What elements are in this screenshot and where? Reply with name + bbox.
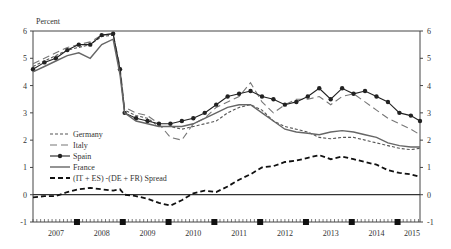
y-tick-label-left: 1 xyxy=(23,163,27,172)
year-end-marker xyxy=(211,219,217,225)
x-tick-label: 2007 xyxy=(48,229,64,238)
legend-label: Germany xyxy=(73,130,103,139)
x-tick-label: 2013 xyxy=(323,229,339,238)
y-tick-label-right: 5 xyxy=(427,54,431,63)
series-spain xyxy=(33,34,420,124)
x-tick-label: 2011 xyxy=(231,229,247,238)
legend-label: France xyxy=(73,163,95,172)
y-tick-label-left: 5 xyxy=(23,54,27,63)
year-end-marker xyxy=(74,219,80,225)
year-end-marker xyxy=(257,219,263,225)
y-tick-label-right: 3 xyxy=(427,109,431,118)
x-tick-label: 2010 xyxy=(185,229,201,238)
y-tick-label-right: 4 xyxy=(427,82,431,91)
x-tick-label: 2014 xyxy=(368,229,384,238)
x-tick-label: 2015 xyxy=(404,229,420,238)
y-tick-label-right: 6 xyxy=(427,27,431,36)
year-end-marker xyxy=(303,219,309,225)
y-tick-label-right: 2 xyxy=(427,136,431,145)
year-end-marker xyxy=(349,219,355,225)
y-tick-label-right: 0 xyxy=(427,191,431,200)
year-end-marker xyxy=(120,219,126,225)
chart: Percent -1-10011223344556620072008200920… xyxy=(0,0,451,249)
x-tick-label: 2009 xyxy=(139,229,155,238)
legend-label: Italy xyxy=(73,141,88,150)
series-italy xyxy=(33,34,420,140)
year-end-marker xyxy=(166,219,172,225)
legend-label: Spain xyxy=(73,152,91,161)
y-tick-label-left: 6 xyxy=(23,27,27,36)
x-tick-label: 2008 xyxy=(94,229,110,238)
y-tick-label-left: 3 xyxy=(23,109,27,118)
y-tick-label-left: 2 xyxy=(23,136,27,145)
y-tick-label-left: 0 xyxy=(23,191,27,200)
legend-label: (IT + ES) -(DE + FR) Spread xyxy=(73,174,167,183)
y-tick-label-right: -1 xyxy=(427,218,434,227)
legend: GermanyItalySpainFrance(IT + ES) -(DE + … xyxy=(50,130,167,183)
y-tick-label-left: 4 xyxy=(23,82,27,91)
y-tick-label-right: 1 xyxy=(427,163,431,172)
year-end-marker xyxy=(395,219,401,225)
y-unit-label: Percent xyxy=(36,17,61,26)
x-tick-label: 2012 xyxy=(277,229,293,238)
y-tick-label-left: -1 xyxy=(20,218,27,227)
